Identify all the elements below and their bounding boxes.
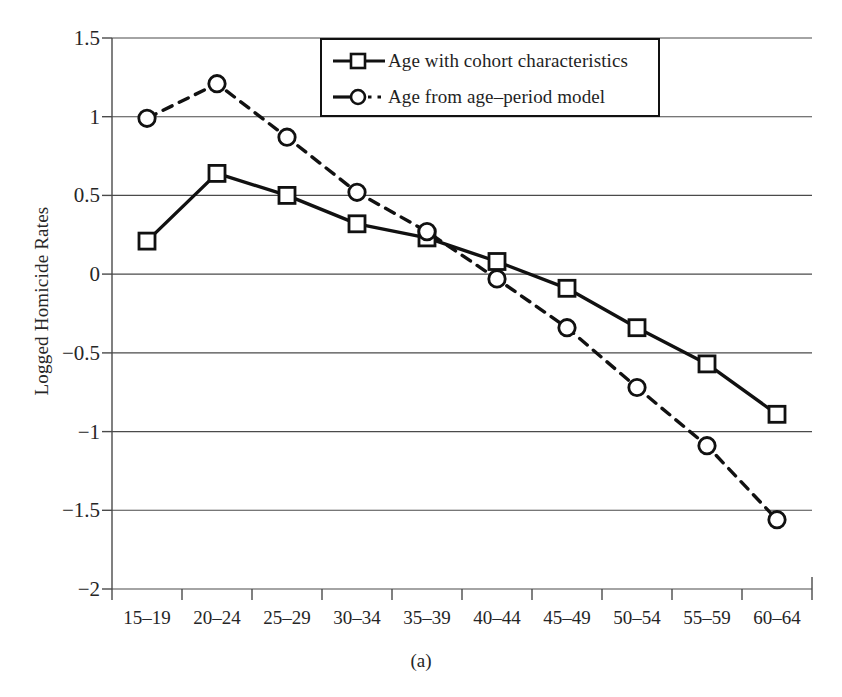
data-point-marker (489, 254, 505, 270)
data-point-marker (699, 356, 715, 372)
data-point-marker (349, 184, 365, 200)
legend-label-1: Age from age–period model (388, 86, 605, 108)
data-point-marker (279, 187, 295, 203)
data-point-marker (489, 271, 505, 287)
x-axis-ticks (112, 589, 812, 600)
data-point-marker (769, 406, 785, 422)
data-point-marker (349, 216, 365, 232)
legend-item-0: Age with cohort characteristics (332, 46, 628, 76)
gridlines (112, 38, 812, 589)
y-tick-label: 0 (44, 262, 100, 287)
x-tick-label: 60–64 (732, 607, 822, 629)
y-tick-label: −2 (44, 577, 100, 602)
series-line-1 (147, 84, 777, 520)
data-point-marker (139, 233, 155, 249)
y-tick-label: −1 (44, 419, 100, 444)
axis-frame (112, 38, 812, 589)
y-tick-label: 0.5 (44, 183, 100, 208)
data-point-marker (419, 223, 435, 239)
data-series-layer (139, 76, 785, 528)
data-point-marker (209, 165, 225, 181)
data-point-marker (769, 512, 785, 528)
data-point-marker (209, 76, 225, 92)
data-point-marker (629, 320, 645, 336)
legend-label-0: Age with cohort characteristics (388, 50, 628, 72)
y-axis-ticks (102, 38, 112, 589)
chart-legend: Age with cohort characteristics Age from… (320, 38, 660, 117)
data-point-marker (559, 280, 575, 296)
data-point-marker (699, 438, 715, 454)
data-point-marker (279, 129, 295, 145)
data-point-marker (559, 320, 575, 336)
y-tick-label: 1.5 (44, 26, 100, 51)
series-line-0 (147, 173, 777, 414)
data-point-marker (629, 379, 645, 395)
legend-swatch-circle-dashed (332, 85, 386, 109)
y-tick-label: −0.5 (44, 340, 100, 365)
legend-item-1: Age from age–period model (332, 82, 605, 112)
figure-caption: (a) (0, 650, 842, 672)
data-point-marker (139, 110, 155, 126)
y-tick-label: 1 (44, 104, 100, 129)
chart-figure: Logged Homicide Rates 1.510.50−0.5−1−1.5… (0, 0, 842, 697)
y-tick-label: −1.5 (44, 498, 100, 523)
legend-swatch-square-solid (332, 49, 386, 73)
